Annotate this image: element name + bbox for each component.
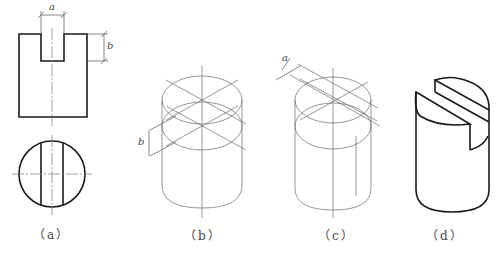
figure-d-finished-isometric	[416, 77, 490, 212]
figure-d-caption: （d）	[426, 226, 464, 243]
figure-c-caption: （c）	[318, 226, 355, 243]
figure-a-caption: （a）	[33, 225, 70, 242]
figure-c-isometric-construction	[276, 58, 380, 218]
figure-b-isometric-construction	[149, 66, 246, 218]
figure-b-caption: （b）	[184, 226, 222, 243]
dimension-a-label: a	[49, 1, 55, 12]
dimension-b-label: b	[107, 40, 113, 51]
figure-a-front-view	[19, 11, 108, 126]
dimension-b-label-fig-b: b	[138, 136, 144, 147]
figure-a-top-view	[12, 135, 92, 215]
dimension-a-label-fig-c: a	[282, 52, 288, 63]
drawing-canvas	[0, 0, 498, 253]
